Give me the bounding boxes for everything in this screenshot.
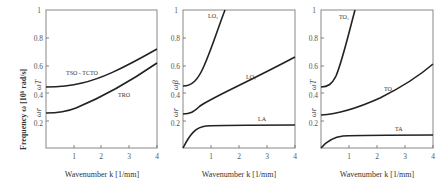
xtick-4: 4	[155, 152, 159, 161]
panel-1-xticks: 1 2 3 4	[72, 145, 159, 161]
ytick-0-2: 0.2	[34, 119, 44, 128]
curve-lo2	[183, 10, 225, 86]
omega-r-marker: ωr	[34, 107, 43, 117]
xtick-4: 4	[293, 152, 297, 161]
xtick-1: 1	[72, 152, 76, 161]
x-axis-title-2: Wavenumber k [1/mm]	[202, 170, 277, 179]
omega-t-marker: ωT	[309, 79, 318, 90]
ytick-0-6: 0.6	[171, 62, 181, 71]
xtick-3: 3	[127, 152, 131, 161]
curve-la	[183, 125, 295, 148]
xtick-3: 3	[265, 152, 269, 161]
xtick-4: 4	[431, 152, 435, 161]
x-axis-title-3: Wavenumber k [1/mm]	[340, 170, 415, 179]
ytick-0-8: 0.8	[34, 34, 44, 43]
y-axis-title: Frequency ω [10⁶ rad/s]	[19, 68, 28, 150]
ytick-0-2: 0.2	[171, 119, 181, 128]
dispersion-figure: Frequency ω [10⁶ rad/s] 1 0.8 0.6 0.4 0.…	[0, 0, 447, 184]
xtick-2: 2	[375, 152, 379, 161]
ytick-0-2: 0.2	[309, 119, 319, 128]
xtick-2: 2	[99, 152, 103, 161]
x-axis-title-1: Wavenumber k [1/mm]	[65, 170, 140, 179]
curve-tso-tcto	[46, 49, 157, 87]
panel-1-yticks: 1 0.8 0.6 0.4 0.2 ωT ωr	[34, 6, 49, 128]
panel-1-frame	[46, 10, 157, 148]
label-tso-tcto: TSO - TCTO	[66, 70, 98, 76]
xtick-2: 2	[237, 152, 241, 161]
label-to1: TO₁	[384, 86, 394, 92]
curve-to2	[321, 10, 355, 87]
label-tro: TRO	[118, 92, 131, 98]
ytick-1: 1	[174, 6, 178, 15]
panel-3-xticks: 1 2 3 4	[347, 145, 435, 161]
xtick-3: 3	[403, 152, 407, 161]
curve-tro	[46, 63, 157, 113]
panel-3-yticks: 1 0.8 0.6 0.4 0.2 ωT ωr	[309, 6, 324, 128]
omega-r-marker: ωr	[309, 107, 318, 117]
label-lo1: LO₁	[246, 74, 256, 80]
omega-r-marker: ωr	[171, 107, 180, 117]
panel-2-xticks: 1 2 3 4	[209, 145, 297, 161]
label-ta: TA	[395, 126, 403, 132]
ytick-1: 1	[312, 6, 316, 15]
panel-2: 1 0.8 0.6 0.4 0.2 ωβ ωr 1 2 3 4 LO₂ LO₁ …	[171, 6, 298, 179]
ytick-1: 1	[37, 6, 41, 15]
ytick-0-6: 0.6	[309, 62, 319, 71]
label-to2: TO₂	[339, 14, 349, 20]
panel-3: 1 0.8 0.6 0.4 0.2 ωT ωr 1 2 3 4 TO₂ TO₁ …	[309, 6, 436, 179]
ytick-0-8: 0.8	[171, 34, 181, 43]
xtick-1: 1	[347, 152, 351, 161]
ytick-0-4: 0.4	[34, 91, 44, 100]
ytick-0-6: 0.6	[34, 62, 44, 71]
curve-lo1	[183, 57, 295, 114]
omega-beta-marker: ωβ	[171, 80, 180, 90]
label-la: LA	[258, 116, 267, 122]
ytick-0-8: 0.8	[309, 34, 319, 43]
panel-1: 1 0.8 0.6 0.4 0.2 ωT ωr 1 2 3 4 TSO - TC…	[34, 6, 160, 179]
panel-3-frame	[321, 10, 433, 148]
ytick-0-4: 0.4	[309, 91, 319, 100]
label-lo2: LO₂	[208, 13, 218, 19]
omega-t-marker: ωT	[34, 79, 43, 90]
panel-2-yticks: 1 0.8 0.6 0.4 0.2 ωβ ωr	[171, 6, 186, 128]
xtick-1: 1	[209, 152, 213, 161]
ytick-0-4: 0.4	[171, 91, 181, 100]
